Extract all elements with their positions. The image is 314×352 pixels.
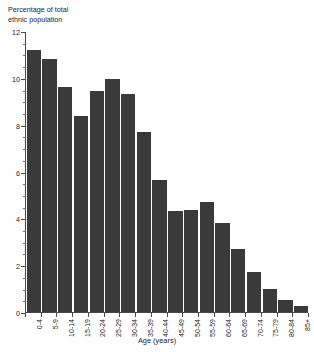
x-tick: [72, 313, 73, 317]
bar-slot: [278, 32, 294, 312]
bar-slot: [293, 32, 309, 312]
y-tick-label: 12: [12, 28, 20, 37]
bar-slot: [42, 32, 58, 312]
x-tick: [151, 313, 152, 317]
x-tick: [88, 313, 89, 317]
bar-slot: [73, 32, 89, 312]
x-tick-label: 80-84: [288, 319, 295, 337]
x-tick-label: 25-29: [115, 319, 122, 337]
x-tick: [167, 313, 168, 317]
y-tick-label: 10: [12, 74, 20, 83]
bars-layer: [26, 32, 308, 312]
y-tick-label: 4: [16, 215, 20, 224]
bar-slot: [199, 32, 215, 312]
x-tick: [261, 313, 262, 317]
y-tick-label: 2: [16, 262, 20, 271]
bar-slot: [168, 32, 184, 312]
x-tick-label: 40-44: [162, 319, 169, 337]
bar: [263, 289, 277, 312]
bar: [200, 202, 214, 312]
x-tick: [25, 313, 26, 317]
y-axis-title: Percentage of total ethnic population: [8, 5, 128, 24]
x-tick: [292, 313, 293, 317]
x-tick: [41, 313, 42, 317]
bar: [231, 249, 245, 312]
x-tick-label: 30-34: [131, 319, 138, 337]
bar-slot: [105, 32, 121, 312]
x-tick: [182, 313, 183, 317]
x-axis-title: Age (years): [0, 336, 314, 345]
bar: [247, 272, 261, 312]
bar-slot: [230, 32, 246, 312]
x-tick-label: 85+: [304, 319, 311, 331]
bar: [215, 223, 229, 312]
x-tick: [119, 313, 120, 317]
bar-chart-figure: Percentage of total ethnic population 02…: [0, 0, 314, 352]
bar: [294, 306, 308, 312]
bar-slot: [57, 32, 73, 312]
x-tick-label: 55-59: [209, 319, 216, 337]
x-tick: [198, 313, 199, 317]
bar-slot: [152, 32, 168, 312]
x-tick-label: 50-54: [194, 319, 201, 337]
bar: [121, 94, 135, 312]
bar-slot: [26, 32, 42, 312]
bar-slot: [136, 32, 152, 312]
bar: [105, 79, 119, 312]
x-tick-label: 15-19: [84, 319, 91, 337]
bar: [152, 180, 166, 312]
bar-slot: [89, 32, 105, 312]
x-tick-label: 60-64: [225, 319, 232, 337]
x-tick: [214, 313, 215, 317]
bar-slot: [183, 32, 199, 312]
y-tick-label: 6: [16, 168, 20, 177]
y-tick-label: 0: [16, 309, 20, 318]
bar: [58, 87, 72, 312]
x-tick-label: 5-9: [52, 319, 59, 329]
x-tick: [229, 313, 230, 317]
x-tick-label: 70-74: [257, 319, 264, 337]
bar-slot: [215, 32, 231, 312]
x-tick-label: 20-24: [99, 319, 106, 337]
bar: [90, 91, 104, 312]
bar: [278, 300, 292, 312]
bar: [27, 50, 41, 312]
x-tick: [104, 313, 105, 317]
x-tick: [308, 313, 309, 317]
x-tick: [245, 313, 246, 317]
x-tick-label: 10-14: [68, 319, 75, 337]
bar: [137, 132, 151, 312]
bar: [184, 210, 198, 312]
bar: [42, 59, 56, 312]
x-tick-label: 45-49: [178, 319, 185, 337]
x-tick: [277, 313, 278, 317]
x-tick-label: 75-79: [272, 319, 279, 337]
bar: [168, 211, 182, 312]
bar: [74, 116, 88, 312]
bar-slot: [246, 32, 262, 312]
x-tick-label: 35-39: [147, 319, 154, 337]
bar-slot: [120, 32, 136, 312]
plot-area: 024681012: [25, 32, 308, 313]
bar-slot: [262, 32, 278, 312]
x-tick: [135, 313, 136, 317]
x-tick-label: 0-4: [36, 319, 43, 329]
y-tick-label: 8: [16, 121, 20, 130]
x-tick: [56, 313, 57, 317]
x-tick-label: 65-69: [241, 319, 248, 337]
